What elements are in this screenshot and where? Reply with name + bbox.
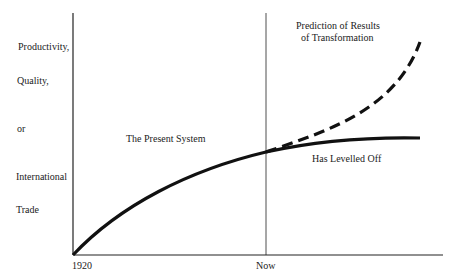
y-label-productivity: Productivity, — [18, 41, 69, 53]
y-label-international: International — [16, 171, 67, 183]
annotation-prediction-line2: of Transformation — [301, 32, 374, 44]
prediction-curve — [266, 42, 420, 152]
annotation-prediction-line1: Prediction of Results — [296, 20, 380, 32]
x-tick-now: Now — [256, 260, 275, 272]
x-tick-1920: 1920 — [72, 260, 92, 272]
annotation-present-system: The Present System — [126, 133, 205, 145]
y-label-quality: Quality, — [17, 75, 49, 87]
y-label-trade: Trade — [16, 204, 39, 216]
y-label-or: or — [17, 123, 25, 135]
annotation-levelled-off: Has Levelled Off — [312, 153, 381, 165]
